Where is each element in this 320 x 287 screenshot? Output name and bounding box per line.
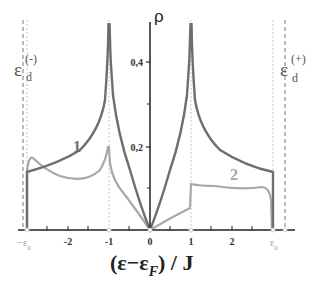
svg-text:(-): (-): [25, 52, 37, 66]
y-tick-label-0.2: 0,2: [131, 142, 144, 153]
svg-text:ε: ε: [280, 59, 288, 80]
x-tick-label-minus-2: -2: [64, 236, 72, 247]
x-tick-label-eps0: ε0: [270, 237, 278, 252]
x-tick-label-0: 0: [148, 236, 153, 247]
x-tick-label-1: 1: [189, 236, 194, 247]
axes: [18, 22, 295, 232]
svg-text:ε: ε: [14, 59, 22, 80]
svg-text:(+): (+): [291, 52, 306, 66]
density-of-states-chart: 0,4 0,2 −ε0 -2 -1 0 1 2 ε0 ρ ε d (-) ε d…: [0, 0, 320, 287]
eps-d-plus-label: ε d (+): [280, 52, 306, 85]
curve-2-label: 2: [230, 166, 238, 183]
x-tick-label-2: 2: [230, 236, 235, 247]
y-axis-label: ρ: [154, 7, 164, 26]
reference-lines: [23, 20, 285, 230]
x-tick-label-minus-1: -1: [105, 236, 113, 247]
eps-d-minus-label: ε d (-): [14, 52, 37, 84]
x-tick-label-minus-eps0: −ε0: [17, 237, 31, 252]
y-tick-label-0.4: 0,4: [131, 57, 144, 68]
x-axis-label: (ε−εF) / J: [110, 250, 193, 279]
svg-text:d: d: [292, 71, 298, 85]
curve-1-label: 1: [73, 138, 81, 155]
svg-text:d: d: [26, 70, 32, 84]
